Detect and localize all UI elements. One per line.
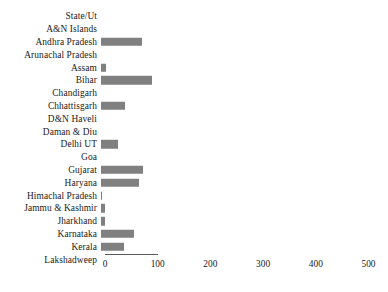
bar (101, 63, 106, 72)
bar-track (101, 10, 388, 23)
chart-row: A&N Islands (0, 23, 388, 36)
x-tick-label: 400 (296, 259, 336, 270)
bar-track (101, 36, 388, 49)
bar-track (101, 61, 388, 74)
bar (101, 242, 124, 251)
category-label: Delhi UT (0, 139, 101, 149)
x-tick-label: 200 (190, 259, 230, 270)
chart-row: Himachal Pradesh (0, 189, 388, 202)
category-label: Goa (0, 152, 101, 162)
bar (101, 140, 118, 149)
category-label: Gujarat (0, 165, 101, 175)
bar-track (101, 240, 388, 253)
x-tick-label: 0 (85, 259, 125, 270)
category-label: Daman & Diu (0, 127, 101, 137)
category-label: Karnataka (0, 229, 101, 239)
chart-row: Jammu & Kashmir (0, 202, 388, 215)
bar-track (101, 151, 388, 164)
category-label: Jharkhand (0, 216, 101, 226)
chart-row: Haryana (0, 176, 388, 189)
chart-row: Gujarat (0, 164, 388, 177)
x-tick-label: 100 (138, 259, 178, 270)
bar (101, 76, 152, 85)
bar-track (101, 100, 388, 113)
bar (101, 179, 139, 188)
bar-track (101, 176, 388, 189)
bar-track (101, 215, 388, 228)
bar-track (101, 23, 388, 36)
chart-row: Goa (0, 151, 388, 164)
bar (101, 230, 134, 239)
bar-track (101, 228, 388, 241)
bar (101, 204, 105, 213)
x-axis-line (105, 254, 158, 255)
chart-row: Chhattisgarh (0, 100, 388, 113)
category-label: Kerala (0, 242, 101, 252)
chart-row: Karnataka (0, 228, 388, 241)
chart-row: D&N Haveli (0, 112, 388, 125)
category-label: D&N Haveli (0, 114, 101, 124)
bar-track (101, 48, 388, 61)
chart-row: Bihar (0, 74, 388, 87)
chart-row: Arunachal Pradesh (0, 48, 388, 61)
category-label: Arunachal Pradesh (0, 50, 101, 60)
bar-track (101, 125, 388, 138)
chart-row: Assam (0, 61, 388, 74)
category-label: Andhra Pradesh (0, 37, 101, 47)
category-label: Chandigarh (0, 88, 101, 98)
chart-row: Delhi UT (0, 138, 388, 151)
chart-row: Andhra Pradesh (0, 36, 388, 49)
category-label: Haryana (0, 178, 101, 188)
bar-track (101, 202, 388, 215)
bar (101, 217, 105, 226)
bar-track (101, 112, 388, 125)
x-tick-label: 500 (349, 259, 388, 270)
category-label: Bihar (0, 75, 101, 85)
bar-track (101, 138, 388, 151)
category-label: Chhattisgarh (0, 101, 101, 111)
chart-row: Daman & Diu (0, 125, 388, 138)
category-label: A&N Islands (0, 24, 101, 34)
x-tick-label: 300 (243, 259, 283, 270)
bar (101, 166, 143, 175)
bar (101, 191, 102, 200)
bar-track (101, 164, 388, 177)
bar-track (101, 189, 388, 202)
chart-row: State/Ut (0, 10, 388, 23)
plot-area: State/UtA&N IslandsAndhra PradeshArunach… (0, 10, 388, 253)
category-label: Himachal Pradesh (0, 191, 101, 201)
bar (101, 102, 125, 111)
bar (101, 38, 142, 47)
category-label: Jammu & Kashmir (0, 203, 101, 213)
bar-track (101, 87, 388, 100)
category-label: State/Ut (0, 11, 101, 21)
chart-row: Chandigarh (0, 87, 388, 100)
bar-chart: State/UtA&N IslandsAndhra PradeshArunach… (0, 0, 388, 292)
chart-row: Kerala (0, 240, 388, 253)
bar-track (101, 74, 388, 87)
category-label: Assam (0, 63, 101, 73)
x-axis: 0100200300400500 (105, 254, 388, 292)
chart-row: Jharkhand (0, 215, 388, 228)
